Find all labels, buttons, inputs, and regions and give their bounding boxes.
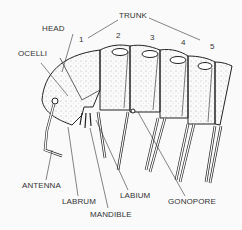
segment-number-2: 2 (116, 32, 121, 40)
segment-number-1: 1 (79, 36, 84, 44)
label-gonopore: GONOPORE (168, 198, 216, 206)
anatomy-figure: TRUNK HEAD OCELLI 1 2 3 4 5 ANTENNA LABR… (0, 0, 242, 230)
segment-number-4: 4 (181, 39, 186, 47)
label-antenna: ANTENNA (22, 182, 61, 190)
segment-number-3: 3 (150, 34, 155, 42)
label-trunk: TRUNK (119, 12, 147, 20)
label-mandible: MANDIBLE (90, 211, 132, 219)
label-ocelli: OCELLI (18, 50, 47, 58)
label-head: HEAD (42, 25, 65, 33)
segment-number-5: 5 (210, 43, 215, 51)
label-labium: LABIUM (120, 192, 150, 200)
label-labrum: LABRUM (62, 198, 96, 206)
